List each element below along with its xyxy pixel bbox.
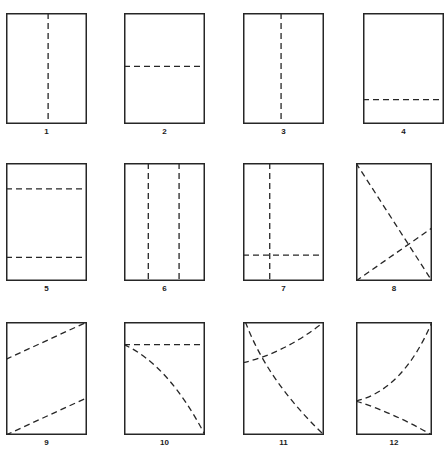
panel-border-4 bbox=[364, 14, 444, 124]
figure-panel-5: 5 bbox=[6, 163, 87, 281]
figure-panel-9: 9 bbox=[6, 322, 87, 435]
panel-border-7 bbox=[244, 164, 324, 281]
figure-panel-6: 6 bbox=[124, 163, 205, 281]
panel-drawing-11 bbox=[243, 322, 324, 435]
panel-label-8: 8 bbox=[356, 284, 432, 293]
panel-drawing-9 bbox=[6, 322, 87, 435]
panel-label-2: 2 bbox=[124, 127, 205, 136]
panel-drawing-4 bbox=[363, 13, 444, 124]
panel-drawing-10 bbox=[124, 322, 205, 435]
figure-panel-3: 3 bbox=[243, 13, 324, 124]
panel-drawing-2 bbox=[124, 13, 205, 124]
panel-label-3: 3 bbox=[243, 127, 324, 136]
panel-border-6 bbox=[125, 164, 205, 281]
figure-panel-1: 1 bbox=[6, 13, 87, 124]
panel-border-10 bbox=[125, 323, 205, 435]
panel-border-11 bbox=[244, 323, 324, 435]
panel-label-4: 4 bbox=[363, 127, 444, 136]
figure-panel-8: 8 bbox=[356, 163, 432, 281]
panel-border-3 bbox=[244, 14, 324, 124]
panel-drawing-12 bbox=[356, 322, 432, 435]
panel-border-12 bbox=[357, 323, 432, 435]
panel-drawing-5 bbox=[6, 163, 87, 281]
panel-border-9 bbox=[7, 323, 87, 435]
figure-panel-7: 7 bbox=[243, 163, 324, 281]
figure-panel-2: 2 bbox=[124, 13, 205, 124]
panel-label-11: 11 bbox=[243, 438, 324, 447]
figure-panel-12: 12 bbox=[356, 322, 432, 435]
panel-drawing-1 bbox=[6, 13, 87, 124]
figure-panel-4: 4 bbox=[363, 13, 444, 124]
panel-border-2 bbox=[125, 14, 205, 124]
figure-panel-11: 11 bbox=[243, 322, 324, 435]
panel-label-9: 9 bbox=[6, 438, 87, 447]
panel-border-5 bbox=[7, 164, 87, 281]
panel-drawing-3 bbox=[243, 13, 324, 124]
panel-label-7: 7 bbox=[243, 284, 324, 293]
panel-label-6: 6 bbox=[124, 284, 205, 293]
panel-label-10: 10 bbox=[124, 438, 205, 447]
panel-border-1 bbox=[7, 14, 87, 124]
panel-drawing-7 bbox=[243, 163, 324, 281]
panel-label-5: 5 bbox=[6, 284, 87, 293]
panel-drawing-6 bbox=[124, 163, 205, 281]
panel-label-12: 12 bbox=[356, 438, 432, 447]
panel-drawing-8 bbox=[356, 163, 432, 281]
figure-panel-10: 10 bbox=[124, 322, 205, 435]
panel-label-1: 1 bbox=[6, 127, 87, 136]
